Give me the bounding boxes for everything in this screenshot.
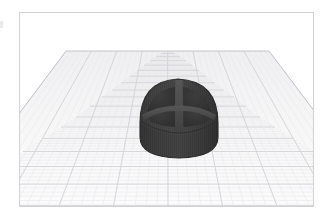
model-object-dome[interactable] — [130, 65, 210, 153]
screenshot-root — [0, 0, 331, 221]
edge-artifact — [0, 21, 3, 28]
rib-vertical — [175, 80, 184, 132]
dome-svg — [130, 65, 230, 165]
viewport-panel[interactable] — [19, 12, 314, 207]
